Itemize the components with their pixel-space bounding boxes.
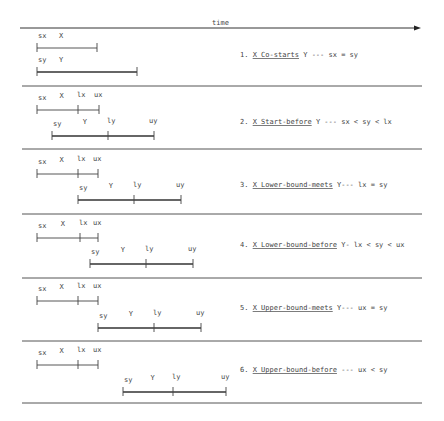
y-mid-label: ly (145, 245, 153, 253)
x-name-label: X (61, 220, 66, 228)
relation-name: X Lower-bound-meets (253, 181, 333, 189)
y-mid-label: ly (107, 117, 115, 125)
x-start-label: sx (38, 94, 46, 102)
relation-text: 5. X Upper-bound-meets Y--- ux = sy (240, 304, 388, 312)
x-name-label: X (60, 347, 65, 355)
relation-name: X Start-before (253, 118, 312, 126)
relation-number: 1. (240, 51, 253, 59)
relation-row-3: sxXlxuxsyYlyuy3. X Lower-bound-meets Y--… (22, 155, 422, 214)
x-start-label: sx (38, 285, 46, 293)
relation-row-6: sxXlxuxsyYlyuy6. X Upper-bound-before --… (22, 346, 422, 403)
x-start-label: sx (38, 222, 46, 230)
x-end-label: ux (93, 155, 101, 163)
time-axis-arrowhead-icon (414, 26, 421, 31)
x-start-label: sx (38, 158, 46, 166)
y-name-label: Y (109, 182, 114, 190)
y-start-label: sy (53, 120, 61, 128)
relation-condition: Y--- lx = sy (333, 181, 388, 189)
y-start-label: sy (91, 248, 99, 256)
x-name-label: X (60, 92, 65, 100)
y-start-label: sy (38, 56, 46, 64)
relation-name: X Co-starts (253, 51, 299, 59)
relation-number: 3. (240, 181, 253, 189)
y-start-label: sy (124, 376, 132, 384)
relation-rows: sxXsyY1. X Co-starts Y --- sx = sysxXlxu… (22, 32, 422, 403)
relation-number: 6. (240, 366, 253, 374)
relation-name: X Upper-bound-before (253, 366, 337, 374)
relation-number: 4. (240, 241, 253, 249)
y-mid-label: ly (133, 181, 141, 189)
y-end-label: uy (149, 117, 157, 125)
y-start-label: sy (99, 312, 107, 320)
relation-row-5: sxXlxuxsyYlyuy5. X Upper-bound-meets Y--… (22, 282, 422, 341)
relation-number: 2. (240, 118, 253, 126)
x-start-label: sx (38, 349, 46, 357)
relation-text: 4. X Lower-bound-before Y- lx < sy < ux (240, 241, 404, 249)
allen-interval-diagram: time sxXsyY1. X Co-starts Y --- sx = sys… (0, 0, 444, 421)
y-end-label: uy (196, 309, 204, 317)
relation-condition: Y--- ux = sy (333, 304, 388, 312)
relation-condition: Y --- sx < sy < lx (312, 118, 392, 126)
y-name-label: Y (151, 374, 156, 382)
x-mid-label: lx (79, 219, 87, 227)
x-name-label: X (59, 32, 64, 40)
y-end-label: uy (176, 181, 184, 189)
relation-text: 3. X Lower-bound-meets Y--- lx = sy (240, 181, 388, 189)
x-end-label: ux (93, 282, 101, 290)
y-name-label: Y (129, 310, 134, 318)
x-start-label: sx (38, 32, 46, 40)
y-name-label: Y (83, 118, 88, 126)
x-name-label: X (60, 156, 65, 164)
relation-condition: --- ux < sy (337, 366, 388, 374)
y-mid-label: ly (153, 309, 161, 317)
relation-condition: Y --- sx = sy (299, 51, 358, 59)
relation-text: 1. X Co-starts Y --- sx = sy (240, 51, 358, 59)
relation-condition: Y- lx < sy < ux (337, 241, 404, 249)
y-mid-label: ly (172, 373, 180, 381)
y-end-label: uy (221, 373, 229, 381)
relation-text: 2. X Start-before Y --- sx < sy < lx (240, 118, 392, 126)
time-axis-label: time (212, 19, 229, 27)
relation-name: X Lower-bound-before (253, 241, 337, 249)
x-mid-label: lx (77, 346, 85, 354)
relation-row-4: sxXlxuxsyYlyuy4. X Lower-bound-before Y-… (22, 219, 422, 278)
relation-number: 5. (240, 304, 253, 312)
x-name-label: X (60, 283, 65, 291)
y-name-label: Y (121, 246, 126, 254)
relation-text: 6. X Upper-bound-before --- ux < sy (240, 366, 388, 374)
x-end-label: ux (94, 91, 102, 99)
x-end-label: ux (93, 219, 101, 227)
x-mid-label: lx (77, 282, 85, 290)
y-name-label: Y (59, 56, 64, 64)
relation-row-1: sxXsyY1. X Co-starts Y --- sx = sy (22, 32, 422, 86)
x-mid-label: lx (77, 91, 85, 99)
x-end-label: ux (93, 346, 101, 354)
y-start-label: sy (79, 184, 87, 192)
relation-row-2: sxXlxuxsyYlyuy2. X Start-before Y --- sx… (22, 91, 422, 149)
relation-name: X Upper-bound-meets (253, 304, 333, 312)
y-end-label: uy (188, 245, 196, 253)
x-mid-label: lx (77, 155, 85, 163)
time-axis: time (20, 19, 421, 31)
